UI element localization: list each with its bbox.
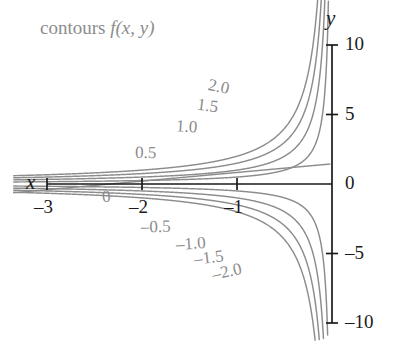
- y-tick-label--5: –5: [345, 242, 364, 264]
- contours-caption-word: contours: [40, 17, 105, 38]
- x-tick-label--3: –3: [34, 196, 53, 218]
- contour-curve-1.5: [14, 190, 320, 339]
- y-axis-label: y: [326, 6, 335, 31]
- y-tick-label-10: 10: [345, 33, 364, 55]
- contours-caption-function: f(x, y): [110, 17, 154, 38]
- contour-plot-figure: contours f(x, y) x y –3–2–11050–5–10 2.0…: [0, 0, 407, 341]
- contours-caption: contours f(x, y): [40, 17, 155, 39]
- y-tick-label--10: –10: [345, 311, 374, 333]
- contour-curve-2.0: [14, 192, 315, 340]
- x-tick-label--1: –1: [224, 196, 243, 218]
- y-tick-label-5: 5: [345, 103, 355, 125]
- y-tick-label-0: 0: [345, 172, 355, 194]
- axes-layer: [47, 45, 338, 323]
- contour-label-2.0: 2.0: [206, 75, 231, 99]
- x-tick-label--2: –2: [129, 196, 148, 218]
- contour-label--0.5: –0.5: [141, 217, 171, 238]
- contour-label-1.5: 1.5: [195, 95, 219, 118]
- contour-label-1.0: 1.0: [175, 116, 197, 137]
- contour-label-0.5: 0.5: [135, 143, 157, 163]
- contour-curve-0.5: [14, 186, 328, 335]
- x-axis-label: x: [26, 170, 35, 195]
- contour-curve-1.0: [14, 188, 324, 338]
- contour-label-0: 0: [101, 186, 111, 207]
- contour-curves-layer: [14, 0, 330, 340]
